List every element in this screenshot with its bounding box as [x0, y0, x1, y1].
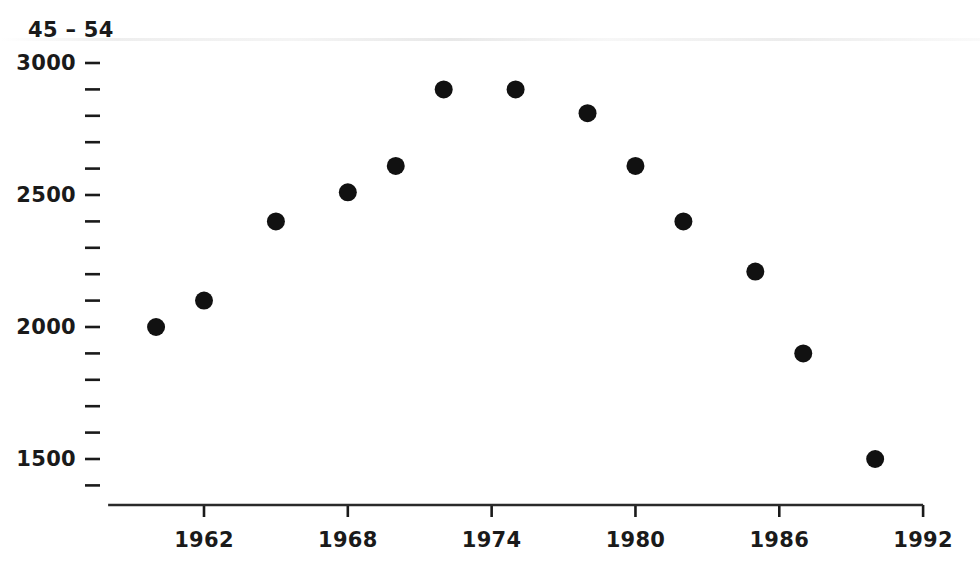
- y-axis-ticks: [85, 63, 100, 485]
- x-axis-tick-labels: 196219681974198019861992: [174, 528, 953, 552]
- y-tick-label: 2500: [16, 183, 76, 207]
- x-tick-label: 1986: [749, 528, 809, 552]
- data-point: [195, 292, 213, 310]
- data-point: [626, 157, 644, 175]
- data-points: [147, 80, 884, 468]
- scatter-plot: 1500200025003000 19621968197419801986199…: [0, 0, 980, 575]
- x-tick-label: 1968: [318, 528, 378, 552]
- x-tick-label: 1974: [462, 528, 522, 552]
- y-axis-tick-labels: 1500200025003000: [16, 51, 76, 471]
- y-tick-label: 2000: [16, 315, 76, 339]
- y-tick-label: 3000: [16, 51, 76, 75]
- data-point: [579, 104, 597, 122]
- data-point: [267, 212, 285, 230]
- data-point: [866, 450, 884, 468]
- data-point: [387, 157, 405, 175]
- x-axis-ticks: [204, 505, 923, 517]
- data-point: [339, 183, 357, 201]
- x-tick-label: 1980: [606, 528, 666, 552]
- chart-page: 45 – 54 1500200025003000 196219681974198…: [0, 0, 980, 575]
- data-point: [674, 212, 692, 230]
- data-point: [794, 344, 812, 362]
- x-tick-label: 1992: [893, 528, 953, 552]
- data-point: [746, 263, 764, 281]
- data-point: [435, 80, 453, 98]
- y-tick-label: 1500: [16, 447, 76, 471]
- data-point: [147, 318, 165, 336]
- data-point: [507, 80, 525, 98]
- x-tick-label: 1962: [174, 528, 234, 552]
